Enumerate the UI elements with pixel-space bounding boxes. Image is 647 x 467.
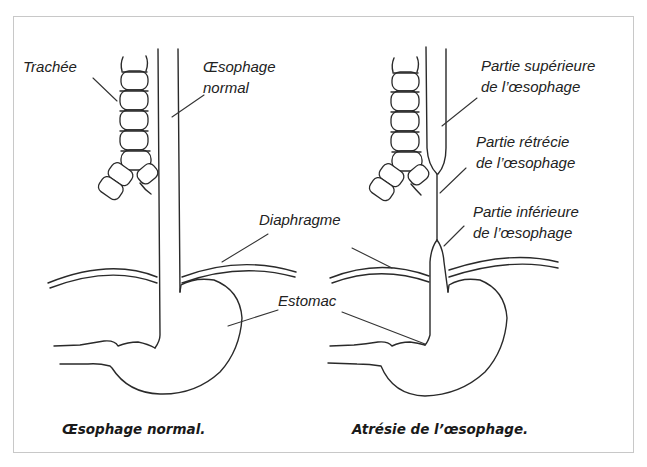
left-trachea <box>96 56 160 202</box>
left-esophagus <box>155 49 180 348</box>
label-upper-line2: de l’œsophage <box>481 76 595 97</box>
caption-atresia: Atrésie de l’œsophage. <box>352 421 528 437</box>
label-narrowed-esophagus: Partie rétrécie de l’œsophage <box>476 131 575 173</box>
label-upper-esophagus: Partie supérieure de l’œsophage <box>481 55 595 97</box>
label-lower-esophagus: Partie inférieure de l’œsophage <box>473 201 579 243</box>
label-narrowed-line1: Partie rétrécie <box>476 131 575 152</box>
label-esophagus-line2: normal <box>203 77 276 98</box>
label-trachea: Trachée <box>23 56 77 77</box>
label-esophagus-normal: Œsophage normal <box>203 56 276 98</box>
label-lower-line1: Partie inférieure <box>473 201 579 222</box>
left-diaphragm <box>48 265 296 288</box>
label-lower-line2: de l’œsophage <box>473 222 579 243</box>
label-esophagus-line1: Œsophage <box>203 56 276 77</box>
right-esophagus-atresia <box>425 47 448 345</box>
right-trachea <box>367 57 431 203</box>
right-stomach <box>328 279 507 396</box>
label-upper-line1: Partie supérieure <box>481 55 595 76</box>
label-diaphragm: Diaphragme <box>259 209 341 230</box>
left-stomach <box>54 279 242 394</box>
caption-normal: Œsophage normal. <box>62 421 205 437</box>
label-stomach: Estomac <box>278 290 336 311</box>
label-narrowed-line2: de l’œsophage <box>476 152 575 173</box>
